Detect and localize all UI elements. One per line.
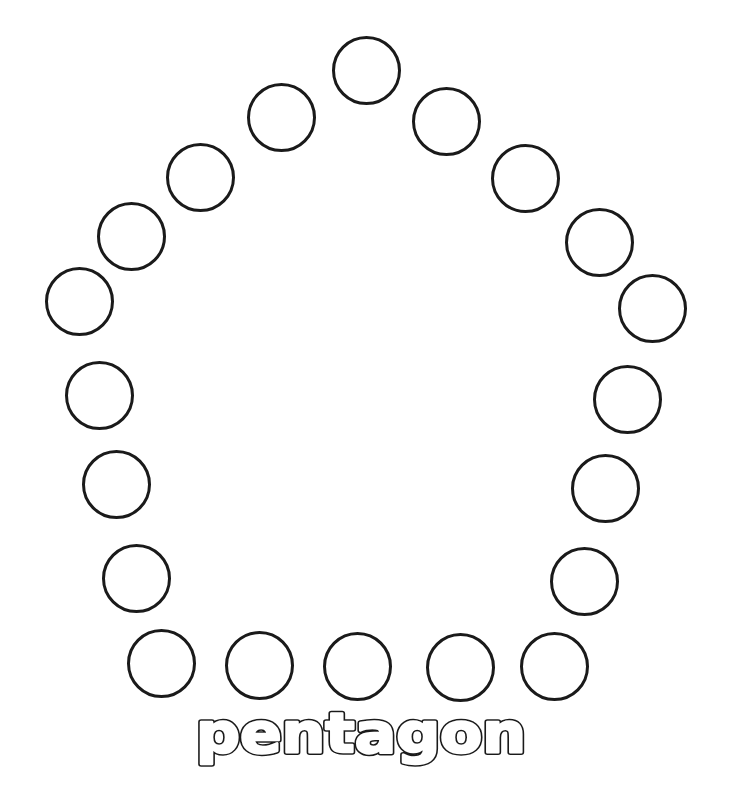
dot-circle-upper-left-3 (97, 202, 166, 271)
dot-circle-left-side-2 (82, 450, 151, 519)
dot-circle-bottom-5 (520, 632, 589, 701)
shape-label-outline: pentagon (196, 700, 526, 765)
dot-circle-left-side-3 (102, 544, 171, 613)
dot-circle-left-corner (45, 267, 114, 336)
dot-circle-bottom-3 (323, 632, 392, 701)
dot-circle-upper-right-2 (491, 144, 560, 213)
dot-circle-upper-right-1 (412, 87, 481, 156)
shape-label-text: pentagon (196, 700, 526, 765)
dot-circle-upper-right-3 (565, 208, 634, 277)
dot-circle-upper-left-2 (166, 143, 235, 212)
pentagon-worksheet: pentagon pentagon (0, 0, 739, 810)
dot-circle-bottom-4 (426, 633, 495, 702)
dot-circle-top (332, 36, 401, 105)
dot-circle-right-side-1 (593, 365, 662, 434)
dot-circle-bottom-2 (225, 631, 294, 700)
dot-circle-right-side-2 (571, 454, 640, 523)
dot-circle-right-corner (618, 274, 687, 343)
dot-circle-upper-left-1 (247, 83, 316, 152)
dot-circle-right-side-3 (550, 547, 619, 616)
dot-circle-left-side-1 (65, 361, 134, 430)
dot-circle-bottom-1 (127, 629, 196, 698)
